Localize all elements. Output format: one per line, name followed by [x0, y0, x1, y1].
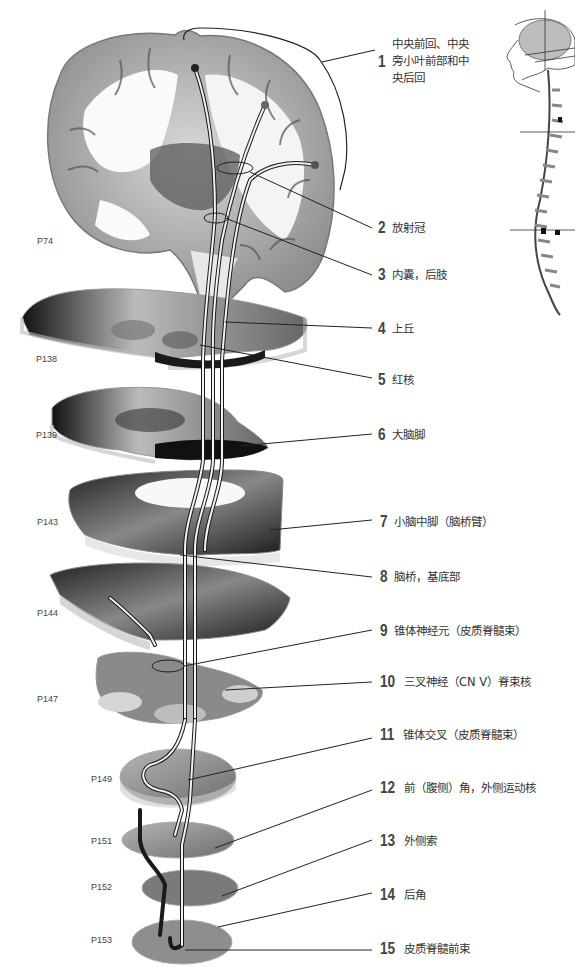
- section-label-p144: P144: [37, 608, 58, 618]
- section-p152: [142, 870, 238, 906]
- section-label-p149: P149: [91, 774, 112, 784]
- section-p139: [52, 387, 268, 462]
- callout-15: 15 皮质脊髓前束: [380, 940, 470, 958]
- callout-12: 12 前（腹侧）角，外侧运动核: [380, 779, 536, 797]
- section-label-p74: P74: [37, 236, 53, 246]
- section-label-p138: P138: [36, 354, 57, 364]
- callout-4: 4 上丘: [378, 320, 414, 338]
- callout-14: 14 后角: [380, 886, 426, 904]
- anatomy-illustration: [0, 0, 575, 976]
- callout-10: 10 三叉神经（CN Ⅴ）脊束核: [380, 673, 531, 691]
- section-label-p143: P143: [37, 517, 58, 527]
- head-spine-locator-icon: [507, 10, 575, 315]
- section-label-p139: P139: [36, 430, 57, 440]
- section-p143: [69, 470, 283, 566]
- callout-11: 11 锥体交叉（皮质脊髓束）: [380, 726, 524, 744]
- callout-2: 2 放射冠: [378, 219, 425, 237]
- section-p74-brain: [48, 31, 334, 300]
- callout-6: 6 大脑脚: [378, 426, 425, 444]
- callout-3: 3 内囊，后肢: [378, 266, 447, 284]
- section-label-p153: P153: [91, 935, 112, 945]
- section-p147: [96, 652, 262, 724]
- callout-13: 13 外侧索: [380, 832, 437, 850]
- callout-1: 1 中央前回、中央旁小叶前部和中央后回: [378, 36, 478, 87]
- callout-5: 5 红核: [378, 371, 414, 389]
- section-p144: [50, 563, 290, 650]
- section-label-p151: P151: [91, 836, 112, 846]
- section-label-p152: P152: [91, 882, 112, 892]
- callout-9: 9 锥体神经元（皮质脊髓束）: [380, 622, 526, 640]
- callout-7: 7 小脑中脚（脑桥臂）: [380, 513, 493, 531]
- diagram-stage: P74 P138 P139 P143 P144 P147 P149 P151 P…: [0, 0, 575, 976]
- section-p138: [22, 289, 307, 369]
- callout-8: 8 脑桥，基底部: [380, 568, 460, 586]
- section-label-p147: P147: [37, 694, 58, 704]
